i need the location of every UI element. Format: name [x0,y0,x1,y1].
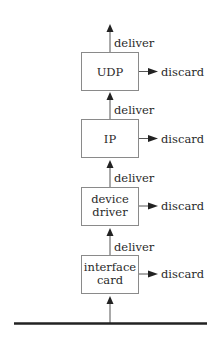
arrow-up-icon [107,92,114,100]
layer-label-interface-card-line1: interface [84,260,137,274]
deliver-label-interface-card: deliver [114,240,155,254]
deliver-label-device-driver: deliver [114,171,155,185]
arrow-right-icon [148,68,158,75]
arrow-right-icon [148,135,158,142]
deliver-label-udp: deliver [114,36,155,50]
arrow-up-icon [107,296,114,304]
arrow-up-icon [107,24,114,32]
layer-label-device-driver-line1: device [91,192,129,206]
deliver-label-ip: deliver [114,103,155,117]
arrow-up-icon [107,228,114,236]
arrow-right-icon [148,271,158,278]
layer-label-udp: UDP [97,65,124,79]
arrow-right-icon [148,203,158,210]
layer-label-interface-card-line2: card [97,273,124,287]
discard-label-device-driver: discard [161,199,205,213]
arrow-up-icon [107,160,114,168]
discard-label-interface-card: discard [161,267,205,281]
discard-label-ip: discard [161,132,205,146]
discard-label-udp: discard [161,65,205,79]
diagram-canvas: deliver UDP discard deliver IP discard d… [0,0,215,345]
layer-label-ip: IP [104,132,117,146]
layer-label-device-driver-line2: driver [92,205,128,219]
